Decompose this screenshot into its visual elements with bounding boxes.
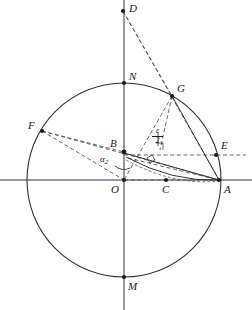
point-C <box>164 178 168 182</box>
point-label-F: F <box>28 120 35 131</box>
angle-alpha-label: α2 <box>100 155 108 166</box>
solid-chords <box>124 96 219 180</box>
point-A <box>217 178 221 182</box>
epsilon-denominator: 2 <box>152 137 163 145</box>
point-label-N: N <box>129 71 136 82</box>
point-G <box>170 94 174 98</box>
point-label-A: A <box>224 184 231 195</box>
point-label-C: C <box>162 184 169 195</box>
point-label-O: O <box>111 184 119 195</box>
arc-B-to-A-dashed <box>126 160 219 182</box>
point-O <box>122 178 126 182</box>
point-M <box>122 275 126 279</box>
point-F <box>40 129 44 133</box>
point-B <box>122 150 127 155</box>
point-label-G: G <box>177 83 185 94</box>
point-markers <box>40 9 221 279</box>
point-label-D: D <box>129 3 137 14</box>
geometry-canvas <box>0 0 252 310</box>
epsilon-over-two-label: ε 2 <box>152 127 163 146</box>
epsilon-numerator: ε <box>152 127 163 135</box>
dashed-B-lower-to-A <box>128 158 219 180</box>
geometric-figure: D N G F B E O C A M α2 ε 2 <box>0 0 252 310</box>
point-N <box>122 81 126 85</box>
point-label-B: B <box>110 138 117 149</box>
alpha-subscript: 2 <box>105 158 109 166</box>
point-D <box>121 9 125 13</box>
point-label-E: E <box>221 140 228 151</box>
point-label-M: M <box>128 281 137 292</box>
segment-B-to-A <box>124 153 219 180</box>
point-E <box>214 153 218 157</box>
arc-angle-alpha <box>115 166 130 170</box>
